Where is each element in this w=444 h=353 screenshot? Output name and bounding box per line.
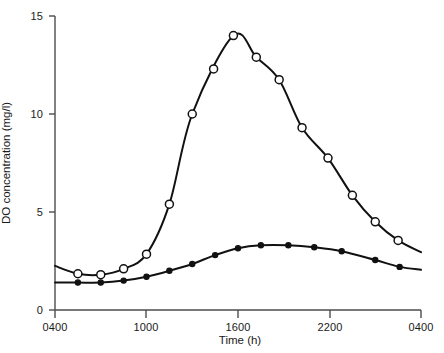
data-point-open-circle-series (210, 65, 218, 73)
data-point-filled-circle-series (144, 274, 149, 279)
x-tick-label-2200: 2200 (318, 321, 343, 333)
y-tick-label-15: 15 (17, 10, 43, 22)
data-point-open-circle-series (324, 154, 332, 162)
data-point-open-circle-series (165, 200, 173, 208)
y-tick-label-5: 5 (17, 206, 43, 218)
plot-area (0, 0, 444, 353)
data-point-open-circle-series (97, 271, 105, 279)
data-point-open-circle-series (120, 265, 128, 273)
data-point-filled-circle-series (312, 245, 317, 250)
data-point-filled-circle-series (213, 253, 218, 258)
data-point-filled-circle-series (397, 264, 402, 269)
data-point-open-circle-series (188, 110, 196, 118)
data-point-filled-circle-series (75, 280, 80, 285)
data-point-filled-circle-series (190, 261, 195, 266)
data-point-open-circle-series (143, 250, 151, 258)
data-point-open-circle-series (252, 53, 260, 61)
series-curve-open-circle-series (55, 33, 421, 275)
y-tick-label-0: 0 (17, 304, 43, 316)
data-point-open-circle-series (275, 76, 283, 84)
x-tick-label-1000: 1000 (134, 321, 159, 333)
series-layer (55, 32, 421, 286)
data-point-filled-circle-series (258, 243, 263, 248)
data-point-filled-circle-series (167, 268, 172, 273)
data-point-open-circle-series (74, 270, 82, 278)
data-point-open-circle-series (298, 124, 306, 132)
x-axis-title: Time (h) (219, 334, 261, 346)
data-point-filled-circle-series (286, 243, 291, 248)
do-concentration-chart: 15 10 5 0 0400 1000 1600 2200 0400 Time … (0, 0, 444, 353)
data-point-filled-circle-series (373, 257, 378, 262)
y-tick-label-10: 10 (17, 108, 43, 120)
x-tick-label-0400-start: 0400 (43, 321, 68, 333)
x-axis-ticks (55, 310, 421, 318)
data-point-open-circle-series (229, 32, 237, 40)
data-point-open-circle-series (348, 191, 356, 199)
data-point-filled-circle-series (98, 280, 103, 285)
y-axis-title: DO concentration (mg/l) (0, 102, 12, 224)
x-tick-label-1600: 1600 (226, 321, 251, 333)
data-point-filled-circle-series (339, 249, 344, 254)
data-point-filled-circle-series (121, 278, 126, 283)
x-tick-label-0400-end: 0400 (409, 321, 434, 333)
data-point-open-circle-series (371, 218, 379, 226)
data-point-filled-circle-series (235, 246, 240, 251)
data-point-open-circle-series (394, 236, 402, 244)
